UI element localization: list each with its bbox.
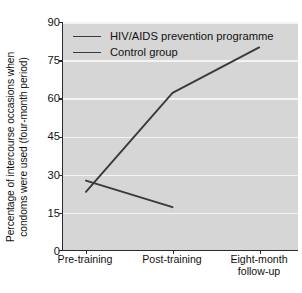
legend-item-hiv-aids-prevention-programme: HIV/AIDS prevention programme [73, 28, 274, 44]
series-line-control-group [86, 181, 173, 208]
x-axis-tick-labels: Pre-training Post-training Eight-month f… [62, 253, 298, 293]
legend-item-control-group: Control group [73, 44, 274, 60]
x-tick-label-post-training: Post-training [142, 253, 201, 265]
legend-label-hiv-aids-prevention-programme: HIV/AIDS prevention programme [110, 30, 274, 42]
x-tick-label-eight-month-follow-up-line-2: follow-up [230, 265, 287, 277]
legend-label-control-group: Control group [110, 46, 178, 58]
y-tick-label-30: 30 [30, 169, 60, 181]
y-axis-tick-labels: 90 75 60 45 30 15 0 [30, 0, 60, 293]
y-tick-label-15: 15 [30, 207, 60, 219]
y-axis-title: Percentage of intercourse occasions when… [0, 0, 34, 293]
chart-figure: Percentage of intercourse occasions when… [0, 0, 302, 293]
x-tick-label-eight-month-follow-up: Eight-month follow-up [230, 253, 287, 278]
x-tick-label-pre-training: Pre-training [58, 253, 113, 265]
x-tick-label-eight-month-follow-up-line-1: Eight-month [230, 253, 287, 265]
y-tick-mark-0 [59, 250, 63, 251]
x-tick-label-post-training-line-1: Post-training [142, 253, 201, 265]
y-tick-label-60: 60 [30, 92, 60, 104]
y-axis-title-line-2: condoms were used (four-month period) [17, 51, 30, 241]
chart-legend: HIV/AIDS prevention programme Control gr… [73, 28, 274, 60]
plot-area: HIV/AIDS prevention programme Control gr… [62, 22, 298, 251]
y-tick-label-0: 0 [30, 245, 60, 257]
y-tick-label-45: 45 [30, 130, 60, 142]
y-axis-title-line-1: Percentage of intercourse occasions when [4, 51, 17, 241]
y-tick-label-90: 90 [30, 16, 60, 28]
legend-line-swatch-icon [73, 36, 101, 37]
legend-line-swatch-icon [73, 52, 101, 53]
x-tick-label-pre-training-line-1: Pre-training [58, 253, 113, 265]
y-tick-label-75: 75 [30, 54, 60, 66]
series-line-hiv-aids-prevention-programme [86, 47, 259, 191]
